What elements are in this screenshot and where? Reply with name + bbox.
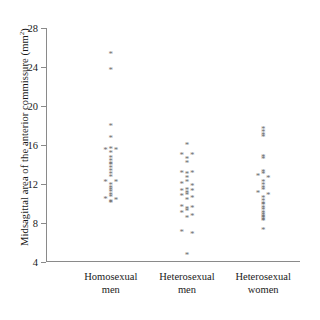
data-point: * <box>190 229 195 238</box>
data-point: * <box>185 251 190 260</box>
y-axis-line <box>46 28 47 262</box>
data-point: * <box>256 172 261 181</box>
data-point: * <box>109 65 114 74</box>
data-point: * <box>190 150 195 159</box>
y-tick-label: 4 <box>33 257 38 268</box>
x-group-label-line1: Heterosexual <box>159 270 214 283</box>
data-point: * <box>185 214 190 223</box>
data-point: * <box>180 191 185 200</box>
data-point: * <box>261 225 266 234</box>
data-point: * <box>114 178 119 187</box>
y-tick-label: 28 <box>28 23 39 34</box>
y-tick-label: 12 <box>28 179 39 190</box>
data-point: * <box>190 212 195 221</box>
x-group-label-line2: women <box>235 283 290 296</box>
data-point: * <box>180 169 185 178</box>
y-tick-label: 16 <box>28 140 39 151</box>
data-point: * <box>185 141 190 150</box>
data-point: * <box>103 145 108 154</box>
data-point: * <box>109 121 114 130</box>
data-point: * <box>180 150 185 159</box>
y-tick-mark <box>41 106 46 107</box>
data-point: * <box>266 190 271 199</box>
y-axis-title: Midsagittal area of the anterior commiss… <box>16 12 34 262</box>
y-tick-label: 20 <box>28 101 39 112</box>
data-point: * <box>109 134 114 143</box>
x-group-label: Homosexualmen <box>84 270 137 296</box>
y-tick-mark <box>41 145 46 146</box>
y-tick-mark <box>41 28 46 29</box>
data-point: * <box>114 195 119 204</box>
y-tick-mark <box>41 262 46 263</box>
data-point: * <box>261 133 266 142</box>
data-point: * <box>190 193 195 202</box>
y-axis-title-superscript: 2 <box>18 32 26 36</box>
figure-canvas: Midsagittal area of the anterior commiss… <box>0 0 320 320</box>
x-group-label: Heterosexualmen <box>159 270 214 296</box>
data-point: * <box>109 198 114 207</box>
x-group-label: Heterosexualwomen <box>235 270 290 296</box>
y-tick-mark <box>41 184 46 185</box>
y-tick-mark <box>41 67 46 68</box>
x-group-label-line1: Homosexual <box>84 270 137 283</box>
data-point: * <box>261 154 266 163</box>
data-point: * <box>103 194 108 203</box>
y-tick-label: 24 <box>28 62 39 73</box>
x-group-label-line2: men <box>159 283 214 296</box>
data-point: * <box>114 145 119 154</box>
plot-area: 481216202428 ***************************… <box>46 28 300 262</box>
data-point: * <box>185 195 190 204</box>
x-group-label-line2: men <box>84 283 137 296</box>
data-point: * <box>109 50 114 59</box>
x-group-label-line1: Heterosexual <box>235 270 290 283</box>
data-point: * <box>256 188 261 197</box>
data-point: * <box>180 227 185 236</box>
x-axis-line <box>46 261 300 262</box>
data-point: * <box>185 158 190 167</box>
y-tick-label: 8 <box>33 218 38 229</box>
data-point: * <box>190 169 195 178</box>
data-point: * <box>180 209 185 218</box>
y-tick-mark <box>41 223 46 224</box>
data-point: * <box>266 174 271 183</box>
data-point: * <box>103 178 108 187</box>
